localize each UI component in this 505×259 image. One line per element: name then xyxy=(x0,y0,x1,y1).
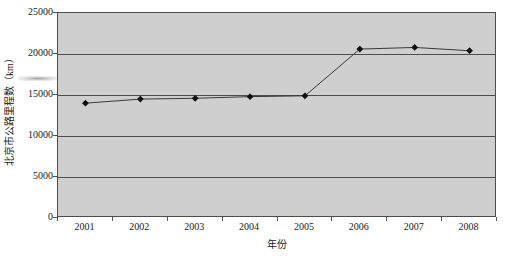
y-axis-tick-labels: 2500020000150001000050000 xyxy=(14,0,56,259)
data-point-marker xyxy=(247,94,252,99)
data-point-marker xyxy=(193,96,198,101)
x-axis-tick-label: 2005 xyxy=(294,220,314,234)
data-point-marker xyxy=(138,97,143,102)
x-axis-tick-labels: 20012002200320042005200620072008 xyxy=(57,220,496,236)
line-chart: 北京市公路里程数（km） 2500020000150001000050000 2… xyxy=(0,0,505,259)
series-plot xyxy=(58,13,496,217)
x-axis-tick-label: 2002 xyxy=(129,220,149,234)
data-point-marker xyxy=(412,45,417,50)
x-axis-tick-label: 2008 xyxy=(459,220,479,234)
x-axis-tick-label: 2007 xyxy=(404,220,424,234)
data-point-marker xyxy=(83,101,88,106)
y-axis-tick-label: 25000 xyxy=(28,7,53,17)
x-axis-tick-mark xyxy=(496,217,497,221)
x-axis-tick-label: 2001 xyxy=(74,220,94,234)
y-axis-tick-label: 10000 xyxy=(28,130,53,140)
data-point-marker xyxy=(467,48,472,53)
y-axis-tick-label: 5000 xyxy=(33,171,53,181)
y-axis-tick-label: 15000 xyxy=(28,89,53,99)
y-axis-tick-label: 20000 xyxy=(28,48,53,58)
x-axis-title: 年份 xyxy=(57,236,496,251)
series-line-road-mileage xyxy=(85,47,469,103)
x-axis-tick-label: 2004 xyxy=(239,220,259,234)
plot-area xyxy=(57,12,496,217)
x-axis-tick-label: 2006 xyxy=(349,220,369,234)
x-axis-tick-label: 2003 xyxy=(184,220,204,234)
